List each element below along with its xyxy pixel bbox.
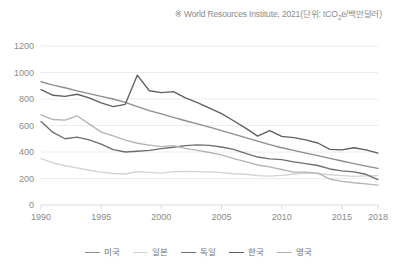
y-axis-tick-label: 1000 bbox=[14, 68, 34, 78]
y-axis-tick-label: 800 bbox=[19, 94, 34, 104]
legend-item[interactable]: 일본 bbox=[133, 247, 168, 257]
source-note: ※ World Resources Institute, 2021(단위: tC… bbox=[0, 8, 382, 24]
legend-line-icon bbox=[133, 252, 148, 253]
x-axis-tick-label: 2010 bbox=[272, 212, 292, 222]
x-axis-tick-label: 1990 bbox=[31, 212, 51, 222]
line-chart-svg: 0200400600800100012001990199520002005201… bbox=[0, 30, 396, 222]
chart-container: ※ World Resources Institute, 2021(단위: tC… bbox=[0, 0, 396, 269]
legend-item[interactable]: 한국 bbox=[229, 247, 264, 257]
series-line bbox=[41, 159, 378, 177]
y-axis-tick-label: 200 bbox=[19, 174, 34, 184]
plot-area: 0200400600800100012001990199520002005201… bbox=[0, 30, 396, 222]
y-axis-tick-label: 600 bbox=[19, 121, 34, 131]
x-axis-tick-label: 2000 bbox=[151, 212, 171, 222]
legend-item[interactable]: 독일 bbox=[181, 247, 216, 257]
legend-line-icon bbox=[277, 252, 292, 253]
y-axis-tick-label: 1200 bbox=[14, 41, 34, 51]
legend-line-icon bbox=[181, 252, 196, 253]
source-note-suffix: e/백만달러) bbox=[341, 9, 382, 19]
legend-item-label: 독일 bbox=[200, 247, 216, 257]
legend-item-label: 영국 bbox=[296, 247, 312, 257]
legend-item-label: 일본 bbox=[152, 247, 168, 257]
legend-item[interactable]: 미국 bbox=[85, 247, 120, 257]
y-axis-tick-label: 400 bbox=[19, 147, 34, 157]
legend-line-icon bbox=[229, 252, 244, 253]
x-axis-tick-label: 2018 bbox=[368, 212, 388, 222]
chart-legend: 미국일본독일한국영국 bbox=[0, 247, 396, 257]
y-axis-tick-label: 0 bbox=[29, 200, 34, 210]
legend-line-icon bbox=[85, 252, 100, 253]
legend-item-label: 미국 bbox=[104, 247, 120, 257]
source-note-prefix: ※ World Resources Institute, 2021(단위: tC… bbox=[175, 9, 338, 19]
x-axis-tick-label: 2015 bbox=[332, 212, 352, 222]
legend-item[interactable]: 영국 bbox=[277, 247, 312, 257]
legend-item-label: 한국 bbox=[248, 247, 264, 257]
x-axis-tick-label: 2005 bbox=[212, 212, 232, 222]
x-axis-tick-label: 1995 bbox=[91, 212, 111, 222]
